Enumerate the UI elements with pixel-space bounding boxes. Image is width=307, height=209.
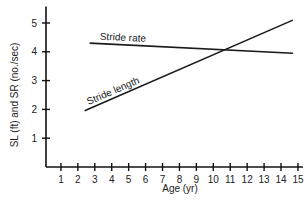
series-label: Stride rate	[100, 31, 147, 44]
x-tick-label: 13	[259, 174, 271, 185]
x-tick-label: 1	[58, 174, 64, 185]
x-tick-label: 2	[75, 174, 81, 185]
x-tick-label: 11	[225, 174, 236, 185]
x-tick-label: 6	[143, 174, 149, 185]
y-axis-label: SL (ft) and SR (no./sec)	[9, 43, 20, 148]
x-tick-label: 3	[92, 174, 98, 185]
y-tick-label: 2	[31, 104, 37, 115]
chart: 12345 123456789101112131415 Stride rateS…	[0, 0, 307, 209]
x-tick-label: 5	[126, 174, 132, 185]
y-tick-label: 5	[31, 18, 37, 29]
y-ticks: 12345	[31, 18, 50, 144]
x-tick-label: 12	[242, 174, 254, 185]
series-group: Stride rateStride length	[85, 20, 293, 111]
y-tick-label: 4	[31, 46, 37, 57]
x-axis-label: Age (yr)	[162, 183, 198, 194]
x-tick-label: 15	[292, 174, 304, 185]
series-line-stride-rate	[90, 43, 293, 53]
x-tick-label: 10	[208, 174, 220, 185]
axes	[46, 7, 303, 167]
y-tick-label: 1	[31, 133, 37, 144]
x-tick-label: 4	[109, 174, 115, 185]
x-tick-label: 14	[275, 174, 287, 185]
y-tick-label: 3	[31, 75, 37, 86]
